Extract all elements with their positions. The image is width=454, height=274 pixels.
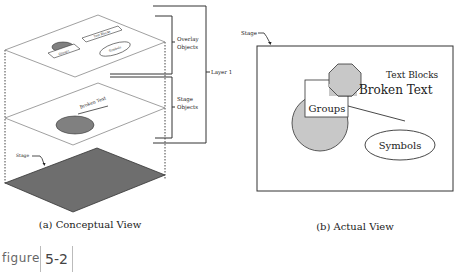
stage-pointer-arrowhead <box>43 163 46 166</box>
figure-diagram: Groups Text Blocks Symbols Broken Text S… <box>0 0 454 274</box>
stage-objects-label-line2: Objects <box>177 104 198 111</box>
stage-label-conceptual: Stage <box>16 153 29 158</box>
actual-groups-label: Groups <box>309 103 346 114</box>
figure-number: 5-2 <box>40 246 73 272</box>
actual-symbols-label: Symbols <box>379 140 422 151</box>
overlay-layer-plane: Groups Text Blocks Symbols <box>5 15 165 77</box>
stage-objects-label-line1: Stage <box>177 96 193 103</box>
stage-circle-shape <box>56 116 94 134</box>
layer-label: Layer 1 <box>211 69 232 76</box>
actual-view-caption: (b) Actual View <box>316 221 394 232</box>
stage-pointer-arrow <box>32 156 44 164</box>
stage-label-actual: Stage <box>241 30 257 37</box>
actual-broken-text-label: Broken Text <box>359 83 433 97</box>
actual-stage-pointer-arrow <box>258 33 270 43</box>
actual-stage-pointer-arrowhead <box>268 42 272 45</box>
overlay-objects-label-line1: Overlay <box>177 36 200 43</box>
overlay-objects-label-line2: Objects <box>177 44 198 51</box>
figure-label: figure <box>2 251 40 265</box>
stage-objects-layer-plane: Broken Text <box>5 83 165 145</box>
conceptual-view-caption: (a) Conceptual View <box>39 219 142 230</box>
actual-text-blocks-label: Text Blocks <box>386 70 439 80</box>
